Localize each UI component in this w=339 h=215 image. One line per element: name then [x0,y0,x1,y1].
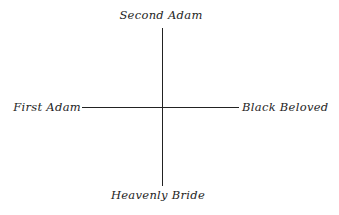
label-top: Second Adam [119,10,202,22]
horizontal-axis-line [82,107,239,108]
label-bottom: Heavenly Bride [111,190,205,202]
label-left: First Adam [13,102,81,114]
label-right: Black Beloved [242,102,328,114]
cross-diagram: Second Adam Heavenly Bride First Adam Bl… [0,0,339,215]
